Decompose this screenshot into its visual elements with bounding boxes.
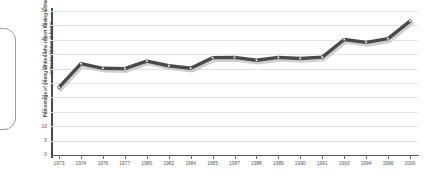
data-point-marker bbox=[234, 57, 236, 59]
data-point-marker bbox=[365, 42, 367, 44]
x-tick-mark bbox=[169, 155, 170, 159]
y-tick-label: 5 bbox=[27, 138, 47, 143]
y-tick-label: 40 bbox=[27, 37, 47, 42]
x-tick-mark bbox=[191, 155, 192, 159]
x-tick-mark bbox=[235, 155, 236, 159]
data-point-marker bbox=[409, 20, 411, 22]
data-line bbox=[59, 21, 410, 87]
plot-area bbox=[51, 11, 418, 155]
x-tick-mark bbox=[322, 155, 323, 159]
y-tick-label: 20 bbox=[27, 95, 47, 100]
panel-rounded-edge bbox=[0, 28, 16, 130]
y-tick-label: 45 bbox=[27, 23, 47, 28]
x-tick-mark bbox=[410, 155, 411, 159]
y-tick-label: 10 bbox=[27, 124, 47, 129]
y-tick-label: 50 bbox=[27, 8, 47, 13]
data-point-marker bbox=[299, 58, 301, 60]
x-tick-mark bbox=[81, 155, 82, 159]
data-point-marker bbox=[278, 57, 280, 59]
x-tick-mark bbox=[388, 155, 389, 159]
x-tick-mark bbox=[59, 155, 60, 159]
data-point-marker bbox=[256, 59, 258, 61]
x-tick-mark bbox=[147, 155, 148, 159]
y-tick-label: 25 bbox=[27, 80, 47, 85]
x-tick-mark bbox=[103, 155, 104, 159]
chart-container: Percentage of young whites who report ha… bbox=[0, 0, 430, 184]
y-tick-label: 15 bbox=[27, 109, 47, 114]
data-point-marker bbox=[58, 86, 60, 88]
data-point-marker bbox=[146, 60, 148, 62]
data-point-marker bbox=[80, 63, 82, 65]
data-point-marker bbox=[190, 67, 192, 69]
data-point-marker bbox=[124, 68, 126, 70]
data-point-marker bbox=[168, 65, 170, 67]
x-tick-mark bbox=[366, 155, 367, 159]
y-tick-label: 30 bbox=[27, 66, 47, 71]
x-tick-label: 2006 bbox=[397, 161, 423, 166]
y-tick-label: 0 bbox=[27, 152, 47, 157]
x-tick-mark bbox=[256, 155, 257, 159]
x-tick-mark bbox=[300, 155, 301, 159]
x-tick-mark bbox=[125, 155, 126, 159]
x-tick-mark bbox=[278, 155, 279, 159]
data-point-marker bbox=[102, 67, 104, 69]
data-point-marker bbox=[343, 39, 345, 41]
data-point-marker bbox=[321, 56, 323, 58]
x-tick-mark bbox=[344, 155, 345, 159]
line-series bbox=[51, 11, 418, 155]
y-tick-label: 35 bbox=[27, 52, 47, 57]
data-point-marker bbox=[212, 57, 214, 59]
x-tick-mark bbox=[213, 155, 214, 159]
data-point-marker bbox=[387, 38, 389, 40]
